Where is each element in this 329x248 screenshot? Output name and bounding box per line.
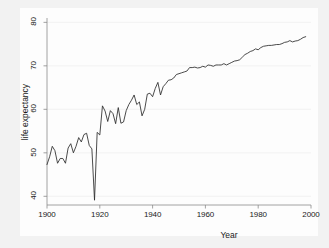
chart-figure: 190019201940196019802000 4050607080 Year… [0,0,329,248]
axis-lines [47,18,311,205]
life-expectancy-line [47,37,306,201]
x-tick-label: 1920 [83,210,117,219]
gridlines [47,22,311,196]
y-tick-label: 40 [28,186,37,206]
y-axis-title: life expectancy [20,72,30,152]
y-tick-label: 80 [28,12,37,32]
x-tick-label: 1940 [136,210,170,219]
x-tick-label: 1980 [241,210,275,219]
x-axis-title: Year [169,230,289,240]
x-tick-label: 2000 [294,210,328,219]
x-tick-label: 1900 [30,210,64,219]
x-tick-label: 1960 [188,210,222,219]
tick-marks [44,22,312,208]
